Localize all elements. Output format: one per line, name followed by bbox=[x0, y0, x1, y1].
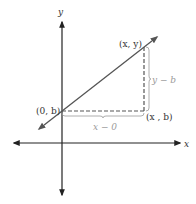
point-corner-label: (x , b) bbox=[146, 112, 172, 122]
run-label: x − 0 bbox=[93, 122, 117, 132]
x-axis-label: x bbox=[184, 139, 189, 149]
rise-label: y − b bbox=[151, 75, 176, 85]
rise-brace bbox=[146, 47, 151, 111]
point-general-label: (x, y) bbox=[119, 39, 142, 49]
run-brace bbox=[62, 113, 144, 118]
point-intercept-label: (0, b) bbox=[36, 106, 60, 116]
slope-intercept-diagram: y x (x, y) (0, b) (x , b) y − b x − 0 bbox=[0, 0, 196, 204]
y-axis-label: y bbox=[57, 7, 64, 17]
